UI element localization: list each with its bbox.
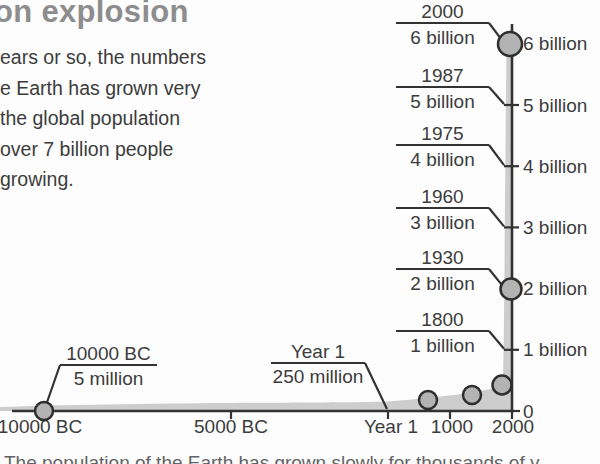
population-chart: 10000 BC5000 BCYear 11000200001 billion2… [0,0,600,464]
callout-value: 5 million [74,368,144,389]
y-tick-label: 2 billion [523,278,587,299]
callout-value: 4 billion [410,149,474,170]
y-tick-label: 1 billion [523,339,587,360]
data-point-marker [493,376,512,395]
book-page: on explosion ears or so, the numbers e E… [0,0,600,464]
callout-year: 10000 BC [66,343,151,364]
data-point-marker [419,391,437,409]
callout-leader-line [489,145,504,165]
data-point-marker [501,279,522,300]
y-tick-label: 6 billion [523,33,587,54]
callout-year: Year 1 [291,341,345,362]
callout-year: 1930 [421,247,463,268]
callout-value: 6 billion [410,27,474,48]
callout-value: 2 billion [410,273,474,294]
y-tick-label: 4 billion [523,156,587,177]
caption-clipped: The population of the Earth has grown sl… [4,451,596,464]
callout-value: 1 billion [410,335,474,356]
callout-value: 250 million [273,366,364,387]
callout-year: 2000 [421,1,463,22]
x-tick-label: Year 1 [364,416,418,437]
callout-year: 1960 [421,186,463,207]
data-point-marker [463,386,481,404]
y-tick-label: 3 billion [523,217,587,238]
callout-leader-line [489,208,504,226]
callout-leader-line [489,87,504,104]
population-chart-svg: 10000 BC5000 BCYear 11000200001 billion2… [0,0,600,464]
callout-year: 1975 [421,123,463,144]
data-point-marker [35,402,53,420]
callout-year: 1800 [421,309,463,330]
x-tick-label: 1000 [431,416,473,437]
callout-year: 1987 [421,65,463,86]
callout-value: 5 billion [410,91,474,112]
data-point-marker [498,32,522,56]
x-tick-label: 5000 BC [194,416,268,437]
callout-value: 3 billion [410,212,474,233]
y-tick-label: 0 [523,401,534,422]
callout-leader-line [489,331,504,349]
y-tick-label: 5 billion [523,95,587,116]
